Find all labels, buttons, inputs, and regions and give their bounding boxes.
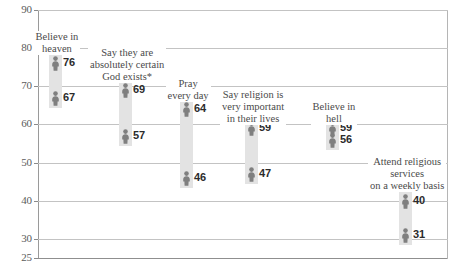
- group-label-line: Believe in: [36, 31, 79, 43]
- person-marker-icon: [51, 91, 60, 106]
- data-value-label: 69: [133, 83, 145, 95]
- group-label-line: hell: [313, 113, 356, 125]
- y-axis-tick-label: 25: [0, 251, 32, 263]
- group-label: Believe inheaven: [34, 31, 81, 55]
- group-label-line: every day: [168, 90, 209, 102]
- group-label-line: Say they are: [90, 47, 164, 59]
- person-marker-icon: [51, 56, 60, 71]
- y-axis-tick-label: 70: [0, 79, 32, 91]
- group-label: Prayevery day: [166, 78, 211, 102]
- person-marker-icon: [328, 133, 337, 148]
- y-axis-tick-label: 90: [0, 3, 32, 15]
- person-marker-icon: [247, 167, 256, 182]
- chart-container: 9080706050403025 7667Believe inheaven695…: [0, 0, 453, 269]
- data-value-label: 64: [194, 102, 206, 114]
- group-label-line: Pray: [168, 78, 209, 90]
- data-value-label: 47: [259, 167, 271, 179]
- y-axis-tick-label: 50: [0, 156, 32, 168]
- group-label-line: God exists*: [90, 71, 164, 83]
- data-value-label: 46: [194, 171, 206, 183]
- y-axis-tick-label: 60: [0, 117, 32, 129]
- group-label-line: Attend religious: [370, 156, 444, 168]
- y-axis-tick-label: 40: [0, 194, 32, 206]
- data-value-label: 57: [133, 129, 145, 141]
- person-marker-icon: [121, 83, 130, 98]
- x-axis-line: [38, 258, 448, 259]
- y-axis-tick: [34, 163, 38, 164]
- gridline: [38, 201, 448, 202]
- group-label-line: very important: [222, 101, 284, 113]
- gridline: [38, 239, 448, 240]
- group-label-line: services: [370, 168, 444, 180]
- group-label-line: absolutely certain: [90, 59, 164, 71]
- group-label-line: heaven: [36, 43, 79, 55]
- person-marker-icon: [121, 129, 130, 144]
- person-marker-icon: [182, 171, 191, 186]
- person-marker-icon: [401, 228, 410, 243]
- y-axis-tick: [34, 201, 38, 202]
- gridline: [38, 86, 448, 87]
- y-axis-tick-label: 80: [0, 41, 32, 53]
- group-label: Attend religiousserviceson a weekly basi…: [368, 156, 446, 192]
- data-value-label: 67: [63, 91, 75, 103]
- group-label: Say religion isvery importantin their li…: [220, 89, 286, 125]
- group-label-line: in their lives: [222, 113, 284, 125]
- y-axis-tick: [34, 86, 38, 87]
- y-axis-tick: [34, 124, 38, 125]
- data-value-label: 40: [413, 194, 425, 206]
- data-value-label: 56: [340, 133, 352, 145]
- group-label: Believe inhell: [311, 101, 358, 125]
- group-label-line: Believe in: [313, 101, 356, 113]
- y-axis-tick: [34, 258, 38, 259]
- data-value-label: 31: [413, 228, 425, 240]
- person-marker-icon: [401, 194, 410, 209]
- y-axis-tick: [34, 239, 38, 240]
- group-label: Say they areabsolutely certainGod exists…: [88, 47, 166, 83]
- gridline: [38, 10, 448, 11]
- y-axis-tick-label: 30: [0, 232, 32, 244]
- y-axis-tick: [34, 10, 38, 11]
- group-label-line: on a weekly basis: [370, 180, 444, 192]
- person-marker-icon: [182, 102, 191, 117]
- group-label-line: Say religion is: [222, 89, 284, 101]
- data-value-label: 76: [63, 56, 75, 68]
